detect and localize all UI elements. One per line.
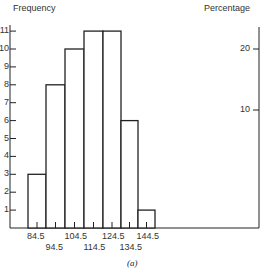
y-tick-label: 7 — [4, 97, 9, 107]
x-tick-label: 114.5 — [84, 242, 106, 252]
y-tick-label: 6 — [4, 115, 9, 125]
y-tick-label: 1 — [4, 204, 9, 214]
y-tick-label: 3 — [4, 168, 9, 178]
right-tick-label: 20 — [240, 43, 250, 53]
histogram-bar — [28, 174, 46, 228]
x-tick-label: 104.5 — [65, 231, 88, 241]
histogram-bar — [121, 121, 138, 228]
x-tick-label: 144.5 — [137, 231, 160, 241]
y-tick-label: 10 — [0, 43, 9, 53]
x-tick-label: 94.5 — [46, 242, 64, 252]
y-tick-label: 9 — [4, 61, 9, 71]
x-tick-label: 84.5 — [27, 231, 45, 241]
histogram-bar — [46, 85, 65, 228]
histogram-bar — [103, 31, 121, 228]
y-tick-label: 4 — [4, 150, 9, 160]
x-tick-label: 124.5 — [102, 231, 125, 241]
right-tick-label: 10 — [240, 104, 250, 114]
x-tick-label: 134.5 — [120, 242, 143, 252]
y-tick-label: 2 — [4, 186, 9, 196]
y-tick-label: 8 — [4, 79, 9, 89]
histogram-bar — [84, 31, 103, 228]
figure-caption: (a) — [127, 258, 138, 268]
y-tick-label: 11 — [0, 25, 9, 35]
histogram-bar — [65, 49, 84, 228]
y-tick-label: 5 — [4, 133, 9, 143]
